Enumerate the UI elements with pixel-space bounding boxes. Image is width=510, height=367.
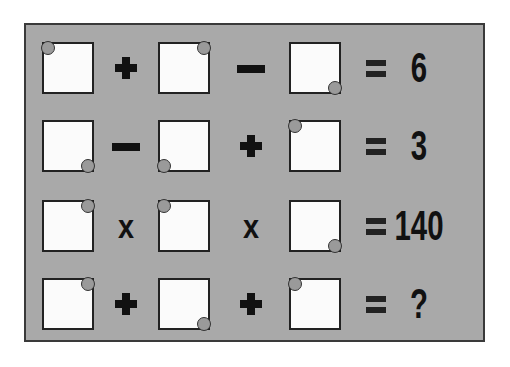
equals-sign — [356, 282, 396, 326]
result-value: 6 — [391, 42, 447, 94]
corner-dot-icon — [288, 119, 302, 133]
equals-sign — [356, 124, 396, 168]
equation-row-4: ? — [26, 278, 483, 334]
corner-dot-icon — [81, 277, 95, 291]
corner-dot-icon — [157, 199, 171, 213]
plus-operator — [106, 46, 146, 90]
equals-sign — [356, 204, 396, 248]
result-value: 3 — [391, 120, 447, 172]
clock-box — [42, 278, 94, 330]
minus-operator — [106, 124, 146, 168]
clock-box — [289, 120, 341, 172]
clock-box — [158, 42, 210, 94]
corner-dot-icon — [157, 159, 171, 173]
clock-box — [289, 42, 341, 94]
plus-operator — [231, 282, 271, 326]
clock-box — [42, 200, 94, 252]
corner-dot-icon — [197, 41, 211, 55]
minus-operator — [231, 46, 271, 90]
clock-box — [158, 278, 210, 330]
question-mark: ? — [391, 278, 447, 330]
times-operator: x — [234, 204, 268, 248]
equals-sign — [356, 46, 396, 90]
plus-operator — [231, 124, 271, 168]
plus-operator — [106, 282, 146, 326]
times-operator: x — [109, 204, 143, 248]
corner-dot-icon — [328, 239, 342, 253]
clock-box — [289, 200, 341, 252]
corner-dot-icon — [288, 277, 302, 291]
equation-row-2: 3 — [26, 120, 483, 176]
clock-box — [158, 200, 210, 252]
clock-box — [42, 42, 94, 94]
result-value: 140 — [391, 200, 447, 252]
corner-dot-icon — [197, 317, 211, 331]
corner-dot-icon — [81, 199, 95, 213]
clock-box — [42, 120, 94, 172]
equation-row-3: x x 140 — [26, 200, 483, 256]
clock-box — [158, 120, 210, 172]
equation-row-1: 6 — [26, 42, 483, 98]
corner-dot-icon — [41, 41, 55, 55]
puzzle-panel: 6 3 x x 140 ? — [24, 23, 485, 342]
corner-dot-icon — [81, 159, 95, 173]
corner-dot-icon — [328, 81, 342, 95]
clock-box — [289, 278, 341, 330]
